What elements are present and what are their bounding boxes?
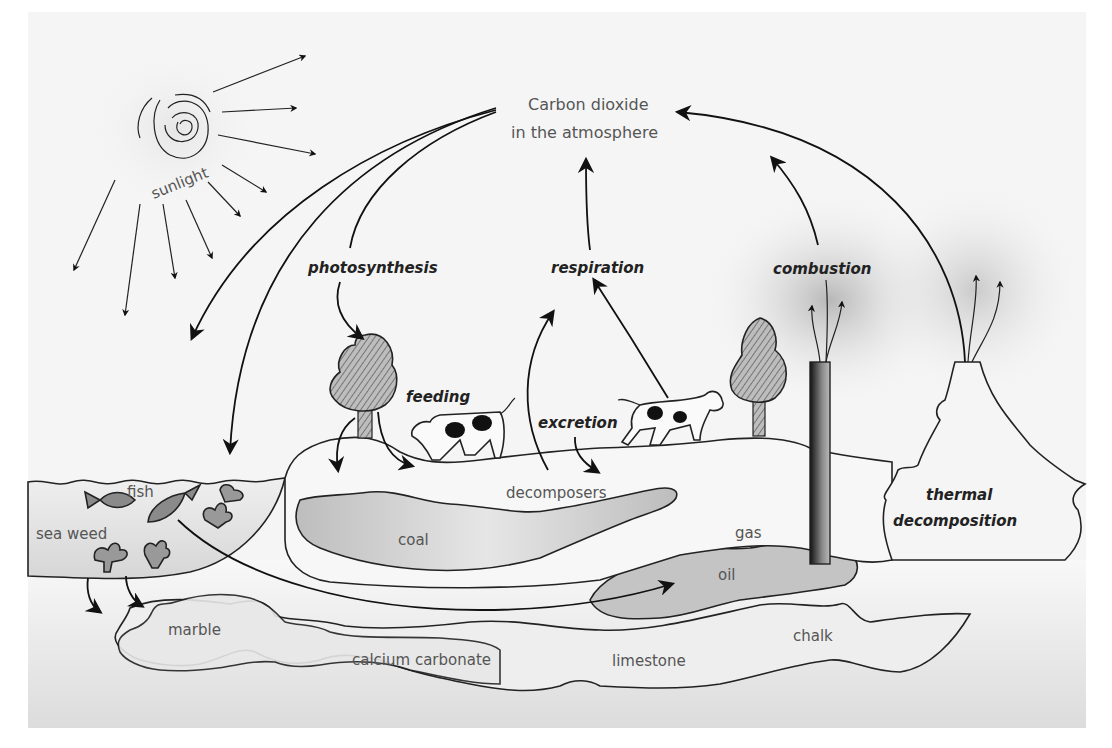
combustion-label: combustion — [773, 260, 871, 278]
sea-weed-label: sea weed — [36, 525, 107, 543]
atmosphere-label-line2: in the atmosphere — [511, 123, 658, 142]
excretion-label: excretion — [538, 414, 618, 432]
feeding-label: feeding — [406, 388, 470, 406]
oil-label: oil — [718, 566, 736, 584]
gas-label: gas — [735, 524, 762, 542]
fish-label: fish — [127, 483, 154, 501]
thermal-label-line2: decomposition — [893, 512, 1017, 530]
photosynthesis-label: photosynthesis — [307, 259, 438, 277]
calcium-carbonate-label: calcium carbonate — [352, 651, 491, 669]
respiration-label: respiration — [551, 259, 644, 277]
coal-label: coal — [398, 531, 429, 549]
carbon-cycle-diagram: sunlight Carbon dioxide in the atmospher… — [0, 0, 1112, 748]
thermal-label-line1: thermal — [926, 486, 993, 504]
limestone-label: limestone — [612, 652, 686, 670]
atmosphere-label-line1: Carbon dioxide — [528, 95, 649, 114]
chimney — [810, 362, 830, 564]
decomposers-label: decomposers — [506, 484, 607, 502]
marble-label: marble — [168, 621, 221, 639]
chalk-label: chalk — [793, 627, 833, 645]
